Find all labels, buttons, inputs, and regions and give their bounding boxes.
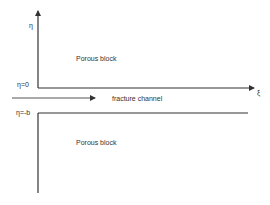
fracture-channel-label: fracture channel	[112, 95, 162, 102]
diagram-lines	[0, 0, 270, 205]
upper-porous-block-label: Porous block	[76, 55, 116, 62]
xi-axis-label: ξ	[257, 89, 260, 96]
eta-minus-b-label: η=-b	[16, 109, 30, 116]
lower-porous-block-label: Porous block	[76, 139, 116, 146]
eta-zero-label: η=0	[17, 81, 29, 88]
fracture-channel-diagram: η Porous block η=0 ξ fracture channel η=…	[0, 0, 270, 205]
eta-axis-label: η	[29, 22, 33, 29]
